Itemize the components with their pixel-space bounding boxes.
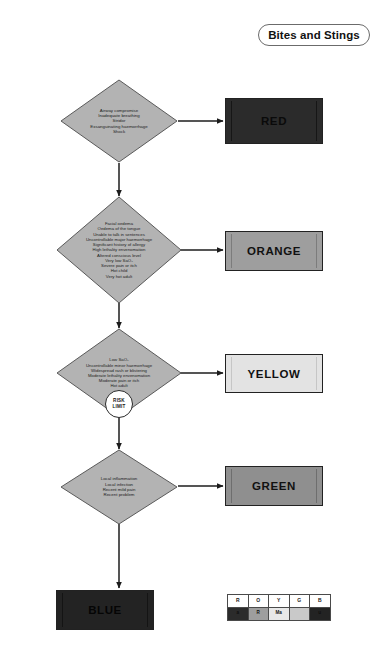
legend-header-row: R O Y G B bbox=[228, 595, 331, 608]
category-label-red: RED bbox=[261, 115, 287, 127]
category-box-blue[interactable]: BLUE bbox=[56, 590, 154, 630]
box-inner-rule bbox=[231, 469, 232, 503]
diamond-shape-green bbox=[60, 449, 178, 525]
category-label-blue: BLUE bbox=[88, 604, 122, 616]
legend-swatch-cell: a bbox=[228, 607, 249, 621]
legend-swatch-cell: Ma bbox=[269, 607, 290, 621]
diamond-shape-red bbox=[60, 79, 178, 163]
category-box-orange[interactable]: ORANGE bbox=[225, 231, 323, 271]
category-label-orange: ORANGE bbox=[247, 245, 301, 257]
criteria-node-red[interactable]: Airway compromise Inadequate breathing S… bbox=[60, 79, 178, 163]
page-title: Bites and Stings bbox=[268, 29, 360, 41]
criteria-node-orange[interactable]: Facial oedema Oedema of the tongue Unabl… bbox=[56, 196, 182, 304]
legend-header-cell: Y bbox=[269, 595, 290, 608]
legend-swatch-cell: u bbox=[310, 607, 331, 621]
criteria-node-green[interactable]: Local inflammation Local infection Recen… bbox=[60, 449, 178, 525]
risk-limit-line2: LIMIT bbox=[113, 404, 126, 410]
legend-header-cell: O bbox=[248, 595, 269, 608]
box-inner-rule bbox=[147, 593, 148, 627]
legend-swatch-cell: R bbox=[248, 607, 269, 621]
box-inner-rule bbox=[316, 469, 317, 503]
legend-header-cell: G bbox=[289, 595, 310, 608]
chart-title-pill: Bites and Stings bbox=[258, 24, 370, 46]
box-inner-rule bbox=[62, 593, 63, 627]
box-inner-rule bbox=[231, 101, 232, 141]
priority-legend-table: R O Y G B a R Ma u bbox=[227, 594, 331, 621]
legend-swatch-cell bbox=[289, 607, 310, 621]
box-inner-rule bbox=[231, 357, 232, 390]
category-box-green[interactable]: GREEN bbox=[225, 466, 323, 506]
triage-flowchart-page: Bites and Stings bbox=[0, 0, 378, 671]
legend-header-cell: B bbox=[310, 595, 331, 608]
category-box-red[interactable]: RED bbox=[225, 98, 323, 144]
legend-header-cell: R bbox=[228, 595, 249, 608]
category-box-yellow[interactable]: YELLOW bbox=[225, 354, 323, 393]
legend-swatch-row: a R Ma u bbox=[228, 607, 331, 621]
category-label-yellow: YELLOW bbox=[248, 368, 301, 380]
box-inner-rule bbox=[316, 357, 317, 390]
risk-limit-marker[interactable]: RISK LIMIT bbox=[105, 390, 133, 418]
box-inner-rule bbox=[231, 234, 232, 268]
box-inner-rule bbox=[316, 101, 317, 141]
box-inner-rule bbox=[316, 234, 317, 268]
category-label-green: GREEN bbox=[252, 480, 296, 492]
diamond-shape-orange bbox=[56, 196, 182, 304]
